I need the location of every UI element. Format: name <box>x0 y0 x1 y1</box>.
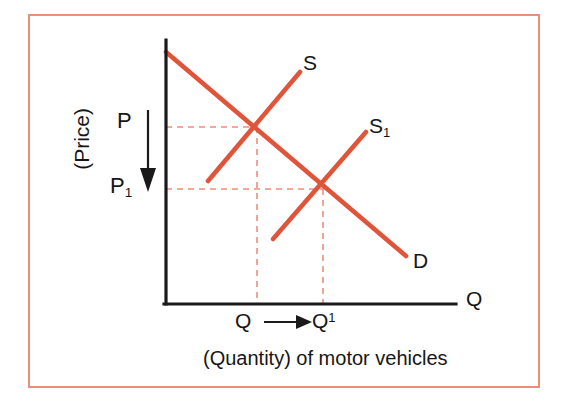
y-axis-title-text: (Price) <box>71 108 92 170</box>
price-fall-arrow-head <box>140 168 156 192</box>
supply-curve-text: S <box>303 51 317 74</box>
price-new-label: P1 <box>110 175 132 197</box>
price-new-subscript: 1 <box>125 185 133 200</box>
demand-curve-text: D <box>413 249 428 272</box>
x-axis-symbol-label: Q <box>466 288 482 309</box>
demand-curve-label: D <box>413 250 428 271</box>
price-initial-text: P <box>117 108 132 133</box>
price-new-text: P <box>110 173 125 198</box>
supply-curve-label: S <box>303 52 317 73</box>
supply-shifted-subscript: 1 <box>383 125 390 140</box>
quantity-new-text: Q <box>312 309 328 332</box>
supply-shifted-text: S <box>369 114 383 137</box>
y-axis-title: (Price) <box>71 46 92 108</box>
x-axis-caption-text: (Quantity) of motor vehicles <box>203 347 448 369</box>
figure-page: (Price) P P1 S S1 D Q Q Q1 (Quantity) of… <box>0 0 568 402</box>
x-axis-symbol-text: Q <box>466 287 482 310</box>
supply-curve-shifted <box>273 132 366 239</box>
quantity-new-label: Q1 <box>312 310 336 331</box>
quantity-rise-arrow-head <box>296 315 312 329</box>
price-initial-label: P <box>117 110 132 132</box>
quantity-new-superscript: 1 <box>328 310 335 325</box>
quantity-initial-label: Q <box>235 310 251 331</box>
x-axis-caption: (Quantity) of motor vehicles <box>203 348 448 368</box>
quantity-initial-text: Q <box>235 309 251 332</box>
supply-shifted-curve-label: S1 <box>369 115 390 136</box>
